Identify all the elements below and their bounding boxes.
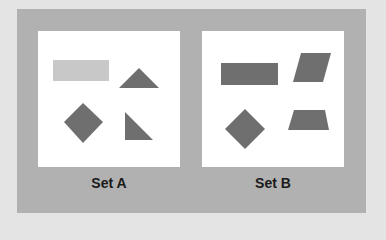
set-a-diamond <box>64 103 103 143</box>
set-b-trapezoid <box>288 110 329 130</box>
set-b-rectangle <box>221 63 278 85</box>
set-a-rectangle <box>53 60 109 81</box>
set-b-diamond <box>225 109 265 149</box>
set-b-parallelogram <box>293 53 331 82</box>
set-a-triangle <box>119 68 159 88</box>
set-a-right-triangle <box>125 112 153 140</box>
set-b-panel <box>202 31 344 167</box>
set-a-label: Set A <box>38 175 180 191</box>
set-a-panel <box>38 31 180 167</box>
set-b-label: Set B <box>202 175 344 191</box>
